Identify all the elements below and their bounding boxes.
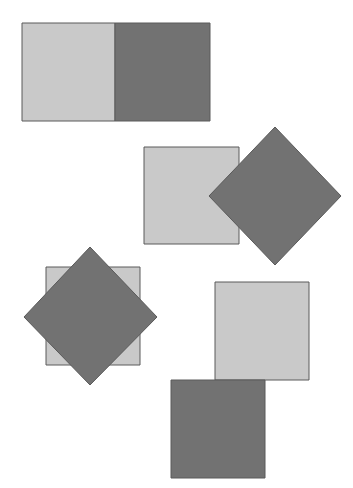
pair-side-by-side bbox=[22, 23, 210, 121]
pair-diamond-over-square bbox=[24, 247, 157, 385]
dark-square bbox=[171, 380, 265, 478]
dark-square bbox=[115, 23, 210, 121]
light-square bbox=[215, 282, 309, 380]
pair-square-and-diamond-overlap bbox=[144, 127, 341, 265]
shapes-canvas bbox=[0, 0, 353, 488]
pair-diagonal-touching bbox=[171, 282, 309, 478]
light-square bbox=[22, 23, 115, 121]
